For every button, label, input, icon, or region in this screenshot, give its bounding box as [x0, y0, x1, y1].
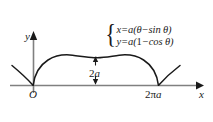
equation-x: x=a(θ−sin θ): [116, 24, 173, 35]
equation-lines: x=a(θ−sin θ) y=a(1−cos θ): [116, 21, 173, 48]
cycloid-left-tail: [12, 66, 33, 86]
y-axis-label: y: [25, 31, 30, 42]
x-axis-label: x: [199, 89, 204, 100]
height-label-var: a: [95, 67, 101, 79]
equation-brace: {: [105, 20, 116, 48]
y-axis-arrowhead: [30, 31, 37, 40]
height-label: 2a: [89, 68, 100, 79]
period-label-var: a: [156, 88, 162, 100]
height-arrow-head-down: [93, 79, 98, 85]
equation-y-part2: −cos θ): [142, 36, 174, 47]
equation-y: y=a(1−cos θ): [116, 36, 173, 47]
cycloid-right-tail: [159, 66, 180, 86]
parametric-equations: { x=a(θ−sin θ) y=a(1−cos θ): [104, 21, 173, 48]
period-label-prefix: 2π: [145, 88, 156, 100]
origin-label: O: [29, 89, 37, 100]
period-label: 2πa: [145, 89, 162, 100]
cycloid-figure: y x O 2πa 2a { x=a(θ−sin θ) y=a(1−cos θ): [0, 0, 213, 122]
equation-y-part1: y=a(: [116, 36, 136, 47]
